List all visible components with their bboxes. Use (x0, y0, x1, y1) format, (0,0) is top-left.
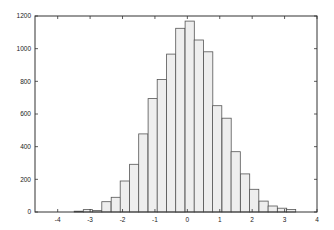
x-tick-label: -2 (120, 216, 126, 223)
histogram-bar (111, 197, 120, 212)
histogram-bar (120, 181, 129, 212)
x-tick-label: -4 (55, 216, 61, 223)
histogram-bar (102, 202, 111, 212)
histogram-bar (167, 54, 176, 212)
histogram-chart: -4-3-2-101234 020040060080010001200 (0, 0, 334, 230)
x-tick-label: 2 (250, 216, 254, 223)
histogram-bar (139, 134, 148, 212)
y-tick-label: 1000 (17, 45, 32, 52)
y-tick-label: 1200 (17, 12, 32, 19)
x-tick-label: 3 (283, 216, 287, 223)
histogram-bar (268, 206, 277, 212)
histogram-bar (278, 208, 287, 212)
y-tick-label: 400 (20, 143, 31, 150)
histogram-bar (241, 174, 250, 212)
x-tick-label: 0 (186, 216, 190, 223)
y-tick-label: 0 (27, 208, 31, 215)
histogram-bar (176, 28, 185, 212)
y-tick-label: 600 (20, 110, 31, 117)
histogram-bars (74, 21, 296, 212)
histogram-bar (222, 118, 231, 212)
x-tick-label: -1 (152, 216, 158, 223)
x-tick-label: -3 (87, 216, 93, 223)
y-tick-label: 200 (20, 176, 31, 183)
histogram-bar (130, 164, 139, 212)
y-tick-label: 800 (20, 78, 31, 85)
histogram-bar (185, 21, 194, 212)
histogram-bar (157, 79, 166, 212)
histogram-bar (148, 99, 157, 212)
histogram-bar (231, 152, 240, 212)
histogram-bar (259, 201, 268, 212)
x-tick-label: 4 (315, 216, 319, 223)
histogram-bar (204, 52, 213, 212)
histogram-bar (194, 40, 203, 212)
histogram-bar (213, 106, 222, 212)
x-tick-label: 1 (218, 216, 222, 223)
histogram-bar (250, 189, 259, 212)
